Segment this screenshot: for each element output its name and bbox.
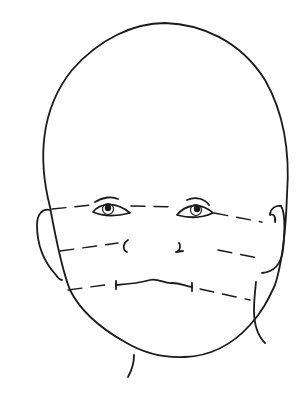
face-diagram: Infant face line drawing with horizontal… [0, 0, 304, 393]
guide-line-mouth [68, 284, 250, 300]
guide-line-nose [60, 243, 258, 258]
guide-line-eyes [52, 205, 262, 222]
nose-icon [124, 240, 183, 252]
head-outline [43, 23, 288, 357]
right-eye-icon [177, 198, 213, 217]
neck-lines [128, 282, 265, 377]
mouth-icon [116, 280, 192, 291]
left-eye-icon [93, 197, 130, 215]
